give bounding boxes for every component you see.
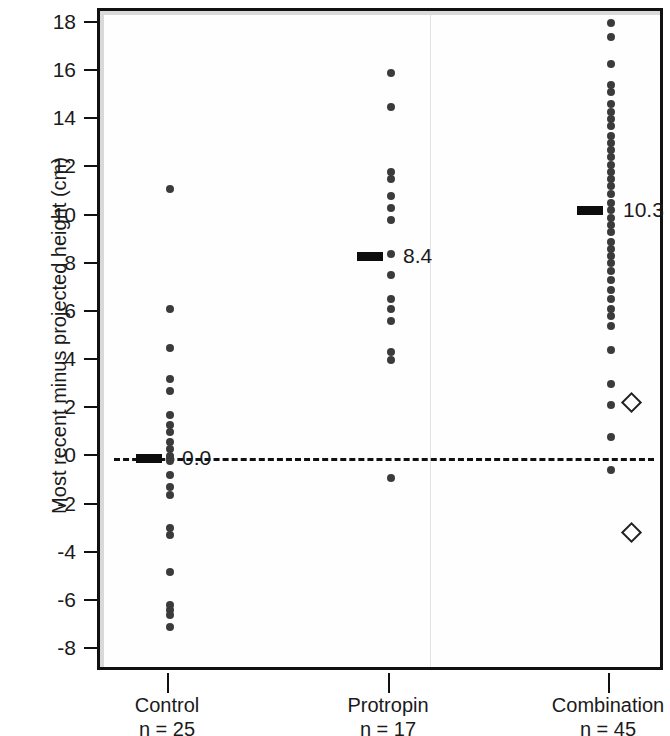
data-point	[607, 346, 615, 354]
x-tick-mark	[608, 673, 610, 693]
data-point	[607, 295, 615, 303]
data-point	[607, 33, 615, 41]
data-point	[166, 611, 174, 619]
y-tick-label: -8	[30, 637, 76, 658]
y-tick-mark	[84, 310, 97, 312]
y-tick-mark	[84, 165, 97, 167]
data-point	[387, 216, 395, 224]
group-name: Control	[135, 694, 199, 716]
data-point	[607, 122, 615, 130]
y-tick-mark	[84, 21, 97, 23]
dot-plot-figure: Most recent minus projected height (cm) …	[0, 0, 670, 736]
data-point	[607, 380, 615, 388]
group-name: Combination	[552, 694, 664, 716]
data-point	[387, 69, 395, 77]
y-tick-mark	[84, 69, 97, 71]
data-point	[607, 60, 615, 68]
group-mean-bar	[136, 454, 162, 463]
data-point	[607, 286, 615, 294]
outlier-diamond-marker	[620, 522, 641, 543]
y-tick-label: -2	[30, 493, 76, 514]
data-point	[387, 474, 395, 482]
group-sample-size: n = 17	[273, 717, 503, 736]
data-point	[387, 204, 395, 212]
data-point	[387, 103, 395, 111]
data-point	[166, 623, 174, 631]
group-name: Protropin	[347, 694, 428, 716]
x-category-label-combination: Combinationn = 45	[493, 693, 670, 736]
y-tick-mark	[84, 454, 97, 456]
y-tick-mark	[84, 117, 97, 119]
data-point	[166, 375, 174, 383]
y-tick-label: 6	[30, 300, 76, 321]
y-tick-label: 2	[30, 396, 76, 417]
y-tick-label: 8	[30, 252, 76, 273]
data-point	[387, 271, 395, 279]
data-point	[607, 322, 615, 330]
data-point	[607, 312, 615, 320]
group-sample-size: n = 45	[493, 717, 670, 736]
x-tick-mark	[167, 673, 169, 693]
y-tick-mark	[84, 358, 97, 360]
data-point	[166, 387, 174, 395]
y-tick-label: 12	[30, 155, 76, 176]
group-mean-bar	[357, 252, 383, 261]
y-tick-label: 18	[30, 11, 76, 32]
data-point	[166, 411, 174, 419]
data-point	[607, 190, 615, 198]
data-point	[387, 356, 395, 364]
y-tick-label: -6	[30, 589, 76, 610]
data-point	[166, 568, 174, 576]
data-point	[607, 433, 615, 441]
panel-divider	[430, 11, 431, 667]
x-tick-mark	[388, 673, 390, 693]
data-point	[166, 305, 174, 313]
y-tick-label: 4	[30, 348, 76, 369]
group-mean-bar	[577, 206, 603, 215]
data-point	[607, 228, 615, 236]
data-point	[607, 19, 615, 27]
data-point	[166, 457, 174, 465]
y-tick-mark	[84, 262, 97, 264]
outlier-diamond-marker	[620, 392, 641, 413]
data-point	[607, 466, 615, 474]
group-mean-label: 8.4	[403, 245, 432, 266]
data-point	[387, 192, 395, 200]
y-tick-label: -4	[30, 541, 76, 562]
group-mean-label: 0.0	[182, 447, 211, 468]
y-tick-mark	[84, 406, 97, 408]
data-point	[166, 491, 174, 499]
y-tick-label: 10	[30, 204, 76, 225]
data-point	[387, 305, 395, 313]
data-point	[607, 267, 615, 275]
y-tick-label: 0	[30, 444, 76, 465]
data-point	[387, 317, 395, 325]
data-point	[607, 276, 615, 284]
plot-area: 0.08.410.3	[97, 8, 663, 670]
group-sample-size: n = 25	[52, 717, 282, 736]
y-tick-label: 16	[30, 59, 76, 80]
data-point	[387, 295, 395, 303]
data-point	[387, 250, 395, 258]
data-point	[166, 531, 174, 539]
data-point	[166, 428, 174, 436]
y-tick-label: 14	[30, 107, 76, 128]
y-tick-mark	[84, 214, 97, 216]
data-point	[607, 401, 615, 409]
data-point	[166, 344, 174, 352]
y-tick-mark	[84, 647, 97, 649]
x-category-label-protropin: Protropinn = 17	[273, 693, 503, 736]
y-tick-mark	[84, 599, 97, 601]
data-point	[387, 175, 395, 183]
group-mean-label: 10.3	[623, 199, 664, 220]
data-point	[166, 471, 174, 479]
data-point	[166, 185, 174, 193]
y-tick-mark	[84, 551, 97, 553]
data-point	[607, 88, 615, 96]
x-category-label-control: Controln = 25	[52, 693, 282, 736]
y-tick-mark	[84, 503, 97, 505]
